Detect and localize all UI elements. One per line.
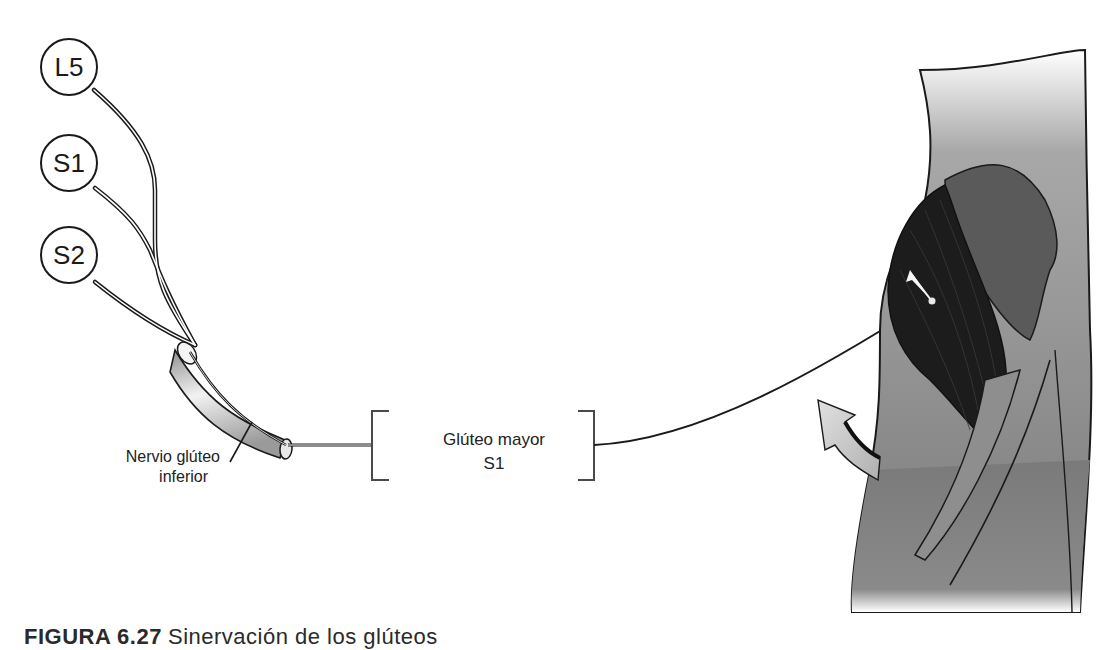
- figure-caption: FIGURA 6.27Sinervación de los glúteos: [24, 624, 438, 650]
- caption-text: Sinervación de los glúteos: [168, 624, 438, 649]
- root-label-s2: S2: [53, 240, 85, 271]
- muscle-name: Glúteo mayor: [394, 428, 594, 452]
- muscle-root: S1: [394, 452, 594, 476]
- nerve-label: Nervio glúteo inferior: [70, 447, 220, 487]
- root-circle-s2: S2: [40, 226, 98, 284]
- hip-thigh-illustration: [818, 50, 1091, 612]
- muscle-label: Glúteo mayor S1: [394, 428, 594, 476]
- nerve-root-branches: [94, 90, 195, 345]
- root-circle-s1: S1: [40, 134, 98, 192]
- hip-extension-arrow-icon: [818, 400, 880, 480]
- nerve-sheath-tube: [168, 339, 293, 460]
- nerve-label-line1: Nervio glúteo: [70, 447, 220, 467]
- root-circle-l5: L5: [40, 38, 98, 96]
- figure-number: FIGURA 6.27: [24, 624, 162, 649]
- root-label-l5: L5: [55, 52, 84, 83]
- nerve-label-line2: inferior: [70, 467, 220, 487]
- root-label-s1: S1: [53, 148, 85, 179]
